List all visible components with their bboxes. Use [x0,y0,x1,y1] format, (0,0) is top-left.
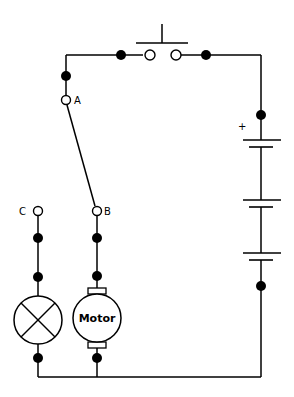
junction-dot [256,110,266,120]
junction-dot [33,353,43,363]
lamp [14,296,62,344]
switch-lever [67,105,95,206]
junction-dot [92,353,102,363]
terminal-a [62,96,71,105]
push-button-switch [136,24,188,60]
circuit-diagram: A C B Motor + [0,0,294,397]
junction-dot [61,71,71,81]
motor-brush-top [88,288,106,294]
motor: Motor [73,288,121,348]
junction-dot [92,271,102,281]
push-switch-contact-left [145,50,155,60]
motor-brush-bottom [88,342,106,348]
junction-dot [201,50,211,60]
label-a: A [74,95,81,106]
push-switch-contact-right [171,50,181,60]
terminal-c [34,207,43,216]
label-b: B [104,206,111,217]
battery [243,140,281,260]
junction-dot [33,233,43,243]
battery-positive-label: + [238,121,246,132]
junction-dot [92,233,102,243]
junction-dot [33,272,43,282]
terminal-b [93,207,102,216]
junction-dot [256,281,266,291]
motor-label: Motor [79,312,116,325]
label-c: C [19,206,26,217]
junction-dot [116,50,126,60]
